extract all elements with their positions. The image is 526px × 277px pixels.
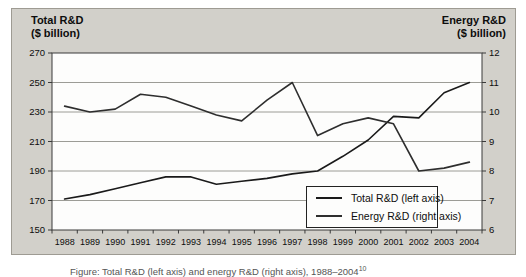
chart-panel: Total R&D ($ billion) Energy R&D ($ bill…: [11, 8, 516, 255]
left-axis-tick-label: 190: [29, 165, 45, 176]
x-axis-year-label: 1993: [181, 237, 201, 247]
x-axis-year-label: 1990: [105, 237, 125, 247]
x-axis-year-label: 1994: [206, 237, 226, 247]
legend-item-total-rd: Total R&D (left axis): [307, 192, 437, 204]
left-axis-tick-label: 170: [29, 195, 45, 206]
x-axis-year-label: 1992: [156, 237, 176, 247]
figure-caption: Figure: Total R&D (left axis) and energy…: [70, 265, 490, 277]
left-axis-tick-label: 270: [29, 47, 45, 58]
right-axis-tick-label: 6: [489, 224, 494, 235]
figure-caption-text: Figure: Total R&D (left axis) and energy…: [70, 266, 359, 277]
chart-legend: Total R&D (left axis) Energy R&D (right …: [306, 186, 438, 228]
figure-caption-footnote-marker: 10: [359, 265, 367, 272]
x-axis-year-label: 2003: [434, 237, 454, 247]
x-axis-year-label: 1995: [232, 237, 252, 247]
left-axis-tick-label: 230: [29, 106, 45, 117]
energy-rd-line-swatch: [316, 215, 342, 217]
legend-label: Total R&D (left axis): [351, 192, 444, 204]
x-axis-year-label: 1999: [333, 237, 353, 247]
left-axis-tick-label: 210: [29, 136, 45, 147]
x-axis-year-label: 2000: [358, 237, 378, 247]
x-axis-year-label: 2001: [383, 237, 403, 247]
left-axis-tick-label: 250: [29, 77, 45, 88]
x-axis-year-label: 1989: [80, 237, 100, 247]
legend-item-energy-rd: Energy R&D (right axis): [307, 210, 437, 222]
right-axis-tick-label: 7: [489, 195, 494, 206]
right-axis-tick-label: 12: [489, 47, 500, 58]
x-axis-year-label: 2002: [409, 237, 429, 247]
x-axis-year-label: 1991: [131, 237, 151, 247]
right-axis-tick-label: 9: [489, 136, 494, 147]
x-axis-year-label: 1997: [282, 237, 302, 247]
legend-label: Energy R&D (right axis): [351, 210, 461, 222]
right-axis-tick-label: 8: [489, 165, 494, 176]
right-axis-tick-label: 11: [489, 77, 499, 88]
x-axis-year-label: 1996: [257, 237, 277, 247]
right-axis-tick-label: 10: [489, 106, 500, 117]
x-axis-year-label: 1988: [55, 237, 75, 247]
x-axis-year-label: 2004: [459, 237, 479, 247]
left-axis-tick-label: 150: [29, 224, 45, 235]
x-axis-year-label: 1998: [308, 237, 328, 247]
total-rd-line-swatch: [316, 197, 342, 199]
